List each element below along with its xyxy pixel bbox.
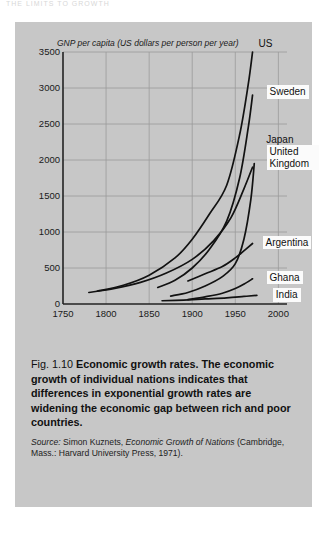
figure-source: Source: Simon Kuznets, Economic Growth o…: [31, 437, 299, 460]
source-title: Economic Growth of Nations: [126, 437, 235, 447]
source-label: Source:: [31, 437, 61, 447]
series-line-united-kingdom: [89, 167, 253, 292]
series-label-ghana: Ghana: [267, 271, 303, 285]
series-label-japan: Japan: [266, 134, 293, 146]
page-running-head: THE LIMITS TO GROWTH: [6, 0, 126, 10]
x-axis-tick-label: 1950: [225, 308, 246, 319]
chart-axis-title: GNP per capita (US dollars per person pe…: [57, 38, 239, 48]
caption-figure-number: Fig. 1.10: [31, 358, 73, 370]
series-label-argentina: Argentina: [263, 236, 312, 250]
x-axis-tick-label: 2000: [268, 308, 289, 319]
y-axis-tick-label: 500: [44, 262, 60, 273]
figure-caption: Fig. 1.10 Economic growth rates. The eco…: [31, 357, 299, 460]
series-line-japan: [171, 164, 255, 296]
y-axis-tick-label: 2000: [39, 154, 60, 165]
x-axis-tick-label: 1900: [182, 308, 203, 319]
series-label-us: US: [259, 38, 273, 50]
chart-area: GNP per capita (US dollars per person pe…: [15, 22, 312, 342]
figure-panel: GNP per capita (US dollars per person pe…: [15, 22, 312, 507]
x-axis-tick-label: 1800: [95, 308, 116, 319]
series-label-india: India: [273, 288, 301, 302]
x-axis-tick-label: 1750: [52, 308, 73, 319]
source-author: Simon Kuznets,: [63, 437, 123, 447]
y-axis-tick-label: 3500: [39, 46, 60, 57]
x-axis-tick-label: 1850: [139, 308, 160, 319]
y-axis-tick-label: 3000: [39, 82, 60, 93]
y-axis-tick-label: 1500: [39, 190, 60, 201]
y-axis-tick-label: 1000: [39, 226, 60, 237]
caption-lead: Economic growth rates.: [76, 358, 198, 370]
series-label-sweden: Sweden: [267, 85, 309, 99]
chart-plot: 0500100015002000250030003500175018001850…: [63, 52, 287, 304]
series-label-united-kingdom: UnitedKingdom: [267, 145, 319, 170]
y-axis-tick-label: 2500: [39, 118, 60, 129]
caption-body: Fig. 1.10 Economic growth rates. The eco…: [31, 357, 299, 430]
chart-svg: [63, 52, 287, 304]
